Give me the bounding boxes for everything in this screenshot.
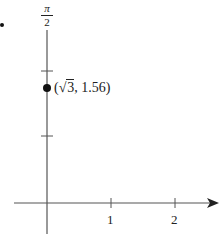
fraction-numerator: π bbox=[41, 3, 53, 16]
x-tick-label-1: 1 bbox=[107, 213, 114, 226]
bullet-marker bbox=[0, 23, 4, 27]
fraction-denominator: 2 bbox=[41, 16, 53, 28]
point-label: (√3, 1.56) bbox=[54, 80, 111, 96]
point-label-rest: , 1.56) bbox=[74, 80, 110, 95]
data-point bbox=[43, 84, 51, 92]
x-tick-label-2: 2 bbox=[171, 213, 178, 226]
sqrt-expression: √3 bbox=[59, 80, 75, 96]
y-axis-top-label: π 2 bbox=[41, 3, 53, 28]
diagram-canvas bbox=[0, 0, 221, 239]
